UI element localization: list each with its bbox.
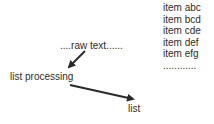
- arrow-icon-processing-to-list: [70, 85, 133, 99]
- arrow-icon-raw-to-processing: [69, 51, 85, 67]
- arrows-layer: [0, 0, 214, 124]
